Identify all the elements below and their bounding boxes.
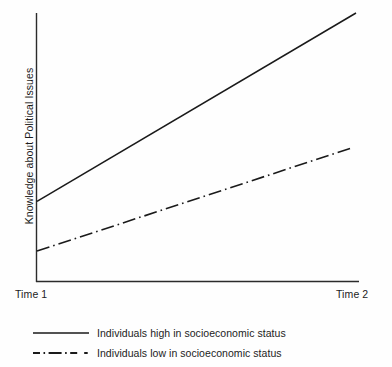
y-axis-title: Knowledge about Political Issues <box>23 21 35 271</box>
line-chart-plot <box>0 0 392 367</box>
x-tick-label-time-1: Time 1 <box>15 288 47 300</box>
legend-label-low-ses: Individuals low in socioeconomic status <box>97 347 282 359</box>
legend-swatch-solid <box>33 326 89 340</box>
series-line-high-ses <box>37 13 356 201</box>
chart-figure: Knowledge about Political Issues Time 1 … <box>0 0 392 367</box>
legend-item-low-ses: Individuals low in socioeconomic status <box>33 345 282 361</box>
legend-swatch-dashdot <box>33 346 89 360</box>
legend-label-high-ses: Individuals high in socioeconomic status <box>97 327 286 339</box>
legend-item-high-ses: Individuals high in socioeconomic status <box>33 325 286 341</box>
x-tick-label-time-2: Time 2 <box>336 288 368 300</box>
series-line-low-ses <box>37 148 353 252</box>
